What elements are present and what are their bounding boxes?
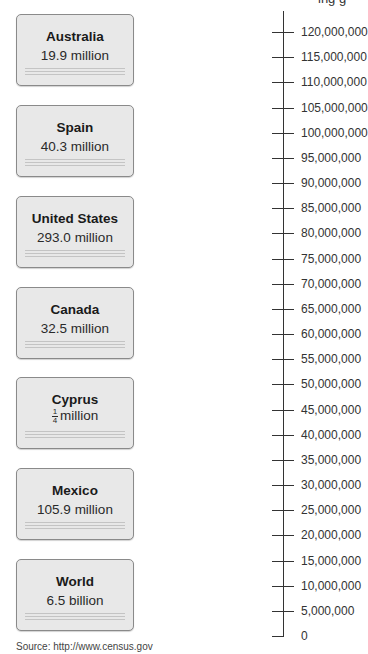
tick-mark (272, 410, 294, 411)
tick-mark (272, 460, 294, 461)
tick-label: 50,000,000 (301, 378, 361, 390)
tick-label: 25,000,000 (301, 504, 361, 516)
card-mexico: Mexico 105.9 million (16, 468, 134, 540)
tick-label: 70,000,000 (301, 278, 361, 290)
tick-label: 35,000,000 (301, 454, 361, 466)
tick-label: 30,000,000 (301, 479, 361, 491)
source-citation: Source: http://www.census.gov (16, 641, 153, 652)
tick-mark (272, 636, 283, 637)
tick-label: 20,000,000 (301, 529, 361, 541)
tick-mark (272, 133, 294, 134)
tick-mark (272, 309, 294, 310)
tick-label: 100,000,000 (301, 127, 368, 139)
card-value: 32.5 million (17, 321, 133, 336)
card-decoration-lines (25, 341, 125, 349)
card-name: United States (17, 211, 133, 226)
card-value: 293.0 million (17, 230, 133, 245)
tick-label: 5,000,000 (301, 605, 354, 617)
tick-label: 85,000,000 (301, 202, 361, 214)
tick-mark (272, 57, 294, 58)
tick-label: 120,000,000 (301, 26, 368, 38)
tick-mark (272, 32, 294, 33)
tick-label: 10,000,000 (301, 580, 361, 592)
tick-label: 110,000,000 (301, 76, 367, 88)
card-decoration-lines (25, 68, 125, 76)
tick-label: 65,000,000 (301, 303, 361, 315)
tick-mark (272, 485, 294, 486)
tick-mark (272, 158, 294, 159)
fraction: 1 4 (52, 408, 58, 425)
card-name: Cyprus (17, 392, 133, 407)
card-name: World (17, 574, 133, 589)
card-value: 19.9 million (17, 48, 133, 63)
tick-label: 90,000,000 (301, 177, 361, 189)
card-decoration-lines (25, 159, 125, 167)
tick-label: 95,000,000 (301, 152, 361, 164)
tick-label: 40,000,000 (301, 429, 361, 441)
card-name: Australia (17, 29, 133, 44)
number-line-axis (283, 11, 284, 637)
card-world: World 6.5 billion (16, 559, 134, 631)
tick-label: 75,000,000 (301, 253, 361, 265)
tick-mark (272, 435, 294, 436)
tick-label: 15,000,000 (301, 555, 361, 567)
tick-label: 60,000,000 (301, 328, 361, 340)
tick-label: 45,000,000 (301, 404, 361, 416)
tick-mark (272, 82, 294, 83)
card-decoration-lines (25, 613, 125, 621)
tick-label: 55,000,000 (301, 353, 361, 365)
tick-label: 80,000,000 (301, 227, 361, 239)
tick-mark (272, 510, 294, 511)
tick-label: 105,000,000 (301, 102, 368, 114)
tick-label: 115,000,000 (301, 51, 367, 63)
tick-mark (272, 561, 294, 562)
tick-mark (272, 208, 294, 209)
card-cyprus: Cyprus 1 4 million (16, 377, 134, 449)
card-name: Mexico (17, 483, 133, 498)
tick-mark (272, 586, 294, 587)
card-canada: Canada 32.5 million (16, 287, 134, 359)
tick-label: 0 (301, 630, 308, 642)
card-value: 1 4 million (17, 408, 133, 425)
card-value: 6.5 billion (17, 593, 133, 608)
card-australia: Australia 19.9 million (16, 14, 134, 86)
tick-mark (272, 384, 294, 385)
cut-off-heading: ing g (318, 0, 346, 6)
tick-mark (272, 284, 294, 285)
card-decoration-lines (25, 431, 125, 439)
tick-mark (272, 108, 294, 109)
tick-mark (272, 611, 294, 612)
card-name: Spain (17, 120, 133, 135)
tick-mark (272, 183, 294, 184)
card-value: 105.9 million (17, 502, 133, 517)
tick-mark (272, 233, 294, 234)
card-name: Canada (17, 302, 133, 317)
tick-mark (272, 535, 294, 536)
tick-mark (272, 359, 294, 360)
card-decoration-lines (25, 250, 125, 258)
card-spain: Spain 40.3 million (16, 105, 134, 177)
card-united-states: United States 293.0 million (16, 196, 134, 268)
tick-mark (272, 334, 294, 335)
tick-mark (272, 259, 294, 260)
card-decoration-lines (25, 522, 125, 530)
card-value: 40.3 million (17, 139, 133, 154)
